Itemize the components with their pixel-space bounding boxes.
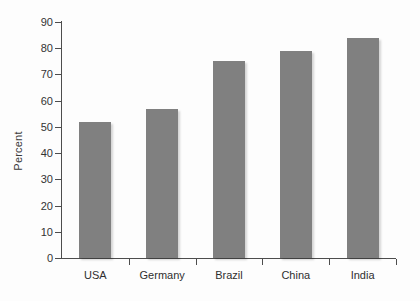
y-axis-tick (55, 153, 61, 154)
y-axis-tick-label: 50 (5, 121, 53, 133)
y-axis-tick-label: 0 (5, 252, 53, 264)
bar-chart: Percent 0102030405060708090 USAGermanyBr… (0, 0, 420, 301)
y-axis-tick (55, 179, 61, 180)
bar (347, 38, 379, 258)
x-axis-tick-label: India (351, 269, 375, 281)
bar (79, 122, 111, 258)
y-axis-tick (55, 258, 61, 259)
y-axis-tick (55, 127, 61, 128)
y-axis-tick (55, 101, 61, 102)
bar (280, 51, 312, 258)
bar (213, 61, 245, 258)
y-axis-tick (55, 74, 61, 75)
plot-area (62, 22, 396, 258)
bar (146, 109, 178, 258)
y-axis-tick-label: 70 (5, 68, 53, 80)
y-axis-tick-label: 20 (5, 200, 53, 212)
x-axis-tick (329, 259, 330, 265)
x-axis-line (62, 258, 396, 259)
x-axis-tick (129, 259, 130, 265)
y-axis-tick-label: 40 (5, 147, 53, 159)
y-axis-tick (55, 22, 61, 23)
y-axis-tick-label: 30 (5, 173, 53, 185)
y-axis-tick-label: 90 (5, 16, 53, 28)
x-axis-tick (396, 259, 397, 265)
x-axis-tick-label: Brazil (215, 269, 243, 281)
x-axis-tick (196, 259, 197, 265)
x-axis-tick-label: Germany (140, 269, 185, 281)
y-axis-tick (55, 48, 61, 49)
x-axis-tick (262, 259, 263, 265)
y-axis-tick-label: 80 (5, 42, 53, 54)
x-axis-tick-label: USA (84, 269, 107, 281)
y-axis-tick (55, 206, 61, 207)
x-axis-tick-label: China (281, 269, 310, 281)
y-axis-tick (55, 232, 61, 233)
y-axis-tick-label: 60 (5, 95, 53, 107)
y-axis-tick-label: 10 (5, 226, 53, 238)
